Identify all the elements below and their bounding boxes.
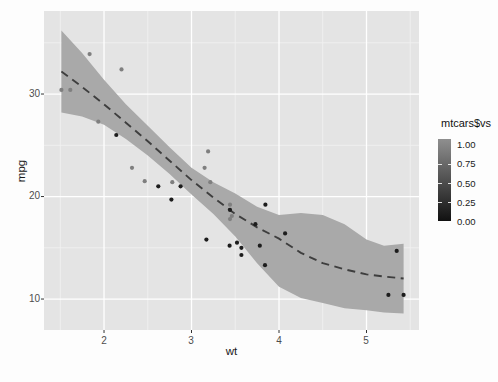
data-point	[208, 180, 212, 184]
colorbar-tick	[438, 202, 442, 203]
data-point	[130, 166, 134, 170]
chart-canvas	[0, 0, 498, 382]
data-point	[179, 184, 183, 188]
legend-label-1.00: 1.00	[457, 139, 493, 150]
data-point	[203, 166, 207, 170]
mpg-vs-wt-scatter-plot: 30 20 10 2 3 4 5 mpg wt mtcars$vs 1.00 0…	[0, 0, 498, 382]
legend-colorbar-gradient	[438, 139, 451, 221]
data-point	[206, 149, 210, 153]
data-point	[156, 184, 160, 188]
data-point	[228, 203, 232, 207]
data-point	[263, 203, 267, 207]
y-tick-label-10: 10	[8, 293, 40, 305]
data-point	[169, 198, 173, 202]
data-point	[395, 249, 399, 253]
data-point	[59, 88, 63, 92]
data-point	[386, 293, 390, 297]
legend-label-0.50: 0.50	[457, 178, 493, 189]
data-point	[253, 222, 257, 226]
data-point	[114, 133, 118, 137]
legend-label-0.75: 0.75	[457, 158, 493, 169]
legend-title: mtcars$vs	[441, 117, 491, 130]
colorbar-tick	[448, 183, 452, 184]
data-point	[258, 244, 262, 248]
y-axis-title: mpg	[14, 151, 28, 191]
x-axis-title: wt	[44, 344, 419, 358]
y-tick-label-20: 20	[8, 190, 40, 202]
data-point	[119, 67, 123, 71]
data-point	[235, 241, 239, 245]
data-point	[402, 293, 406, 297]
data-point	[239, 246, 243, 250]
data-point	[263, 263, 267, 267]
colorbar-tick	[438, 183, 442, 184]
data-point	[204, 238, 208, 242]
data-point	[228, 208, 232, 212]
data-point	[96, 120, 100, 124]
data-point	[143, 179, 147, 183]
data-point	[283, 231, 287, 235]
colorbar-tick	[438, 164, 442, 165]
data-point	[228, 244, 232, 248]
y-tick-label-30: 30	[8, 88, 40, 100]
data-point	[228, 217, 232, 221]
colorbar-tick	[448, 202, 452, 203]
colorbar-tick	[448, 164, 452, 165]
data-point	[68, 88, 72, 92]
legend-label-0.25: 0.25	[457, 197, 493, 208]
data-point	[170, 180, 174, 184]
legend-label-0.00: 0.00	[457, 216, 493, 227]
data-point	[239, 253, 243, 257]
data-point	[88, 52, 92, 56]
